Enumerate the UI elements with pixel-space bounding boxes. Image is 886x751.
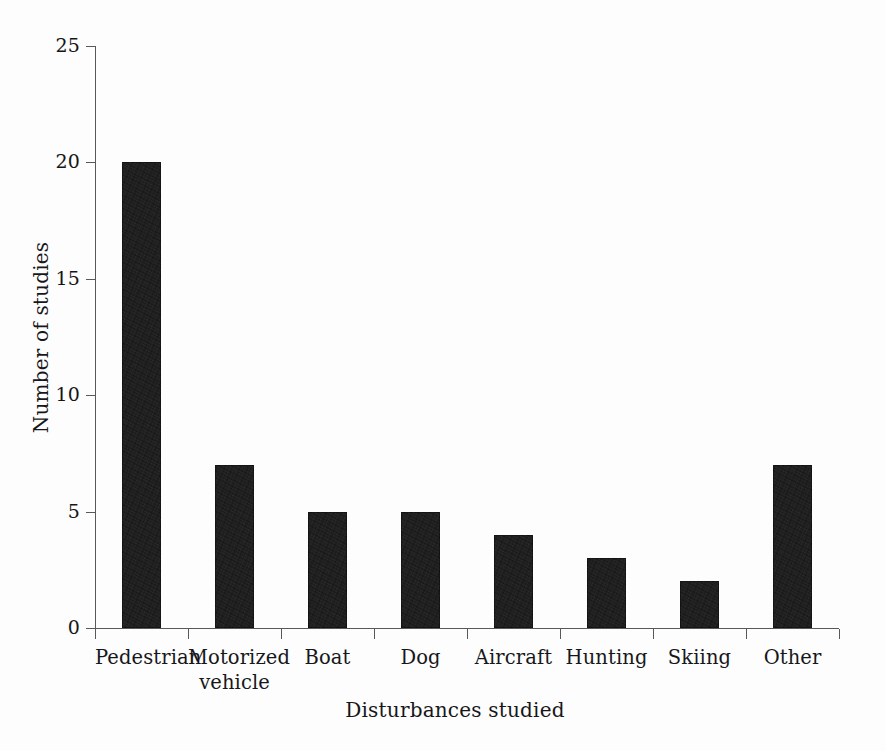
x-axis-category-label: Other [746,645,839,670]
bar [494,535,533,628]
x-axis-category-label: Aircraft [467,645,560,670]
x-axis-category-label: Pedestrian [95,645,188,670]
bar [122,162,161,628]
bar [587,558,626,628]
x-axis-category-label: Motorized vehicle [188,645,281,695]
x-axis-category-label: Skiing [653,645,746,670]
bar [773,465,812,628]
bar [308,512,347,628]
bar [680,581,719,628]
bar [215,465,254,628]
x-axis-title: Disturbances studied [0,699,886,721]
x-axis-title-text: Disturbances studied [345,698,564,722]
bar [401,512,440,628]
x-axis-category-label: Hunting [560,645,653,670]
bar-series [0,0,886,751]
x-axis-category-label: Dog [374,645,467,670]
bar-chart-figure: Number of studies 0510152025 PedestrianM… [0,0,886,751]
x-axis-category-label: Boat [281,645,374,670]
